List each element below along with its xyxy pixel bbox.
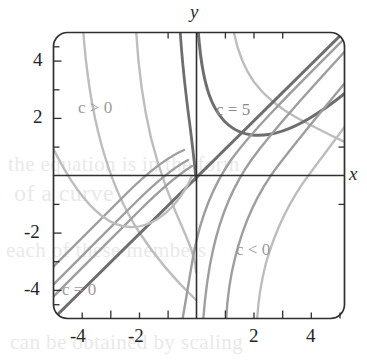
curve-label-c-greater-than-0: c > 0	[78, 98, 112, 118]
curve-group	[50, 26, 351, 322]
curve-label-c-equals-5: c = 5	[216, 100, 250, 120]
y-tick-label-neg-2: -2	[24, 221, 40, 243]
y-tick-label-neg-4: -4	[24, 278, 40, 300]
y-tick-label-2: 2	[33, 106, 43, 128]
curve-label-c-less-than-0: c < 0	[236, 240, 270, 260]
x-tick-label-2: 2	[249, 325, 259, 347]
x-tick-label-4: 4	[306, 325, 316, 347]
x-axis-label: x	[349, 163, 357, 185]
curve-c-neg-3-right	[203, 48, 348, 322]
y-axis-label: y	[190, 1, 198, 23]
figure-canvas	[0, 0, 367, 362]
curve-c-0-line	[50, 26, 350, 322]
y-tick-label-4: 4	[33, 49, 43, 71]
x-tick-label-neg-2: -2	[128, 325, 144, 347]
x-tick-label-neg-4: -4	[70, 325, 86, 347]
curve-c-5-left	[180, 28, 196, 180]
curve-label-c-equals-0: c = 0	[62, 280, 96, 300]
curve-c-neg-12-right	[257, 118, 351, 322]
curve-c-10-left	[136, 28, 196, 272]
